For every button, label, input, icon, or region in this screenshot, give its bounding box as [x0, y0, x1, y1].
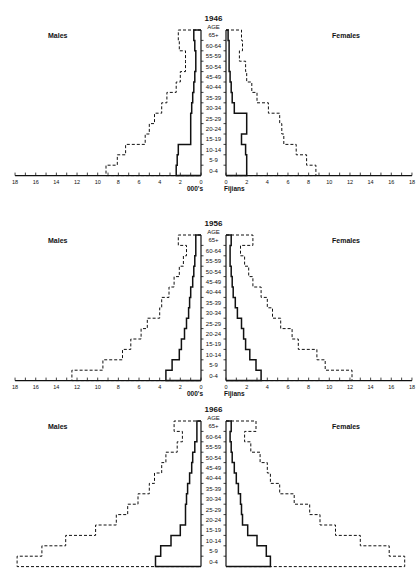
x-tick-label-right: 14 [368, 384, 374, 390]
age-group-label: 35-39 [206, 95, 222, 101]
x-tick-label-right: 2 [245, 179, 248, 185]
age-group-label: 40-44 [206, 84, 222, 90]
age-group-label: 65+ [208, 423, 219, 429]
x-tick-label-left: 12 [74, 384, 80, 390]
x-tick-label-left: 16 [33, 179, 39, 185]
age-header-label: AGE [207, 229, 220, 235]
age-group-label: 5-9 [209, 362, 218, 368]
females-label: Females [332, 423, 360, 430]
age-group-label: 0-4 [209, 559, 218, 565]
x-tick-label-left: 10 [95, 179, 101, 185]
males-dashed-step-line [72, 235, 201, 381]
females-dashed-step-line [226, 30, 316, 176]
age-header-label: AGE [207, 24, 220, 30]
females-dashed-step-line [226, 421, 405, 567]
x-tick-label-right: 18 [409, 179, 415, 185]
x-tick-label-right: 14 [368, 179, 374, 185]
x-tick-label-right: 8 [307, 384, 310, 390]
pyramid-panel-1956: 1956AGEMalesFemales65+60-6455-5950-5445-… [12, 219, 415, 398]
age-group-label: 10-14 [206, 538, 222, 544]
x-tick-label-left: 14 [53, 384, 59, 390]
age-group-label: 45-49 [206, 279, 222, 285]
age-group-label: 30-34 [206, 105, 222, 111]
x-tick-label-left: 12 [74, 179, 80, 185]
age-group-label: 15-19 [206, 341, 222, 347]
x-tick-label-right: 18 [409, 384, 415, 390]
males-dashed-step-line [106, 30, 201, 176]
panel-year-title: 1946 [205, 14, 223, 23]
age-group-label: 25-29 [206, 507, 222, 513]
females-solid-step-line [226, 235, 261, 381]
x-tick-label-left: 8 [117, 384, 120, 390]
x-axis-population-label: Fijians [224, 185, 245, 193]
x-tick-label-left: 6 [137, 179, 140, 185]
x-tick-label-left: 16 [33, 384, 39, 390]
x-tick-label-right: 6 [286, 384, 289, 390]
x-tick-label-right: 4 [266, 384, 269, 390]
males-label: Males [48, 423, 68, 430]
age-group-label: 60-64 [206, 434, 222, 440]
age-group-label: 5-9 [209, 548, 218, 554]
x-tick-label-left: 18 [12, 384, 18, 390]
x-tick-label-right: 2 [245, 384, 248, 390]
x-tick-label-left: 8 [117, 179, 120, 185]
males-dashed-step-line [17, 421, 201, 567]
panel-year-title: 1956 [205, 219, 223, 228]
age-group-label: 0-4 [209, 373, 218, 379]
females-label: Females [332, 237, 360, 244]
males-label: Males [48, 32, 68, 39]
age-group-label: 30-34 [206, 496, 222, 502]
males-solid-step-line [176, 30, 201, 176]
females-solid-step-line [226, 30, 247, 176]
age-group-label: 35-39 [206, 486, 222, 492]
age-group-label: 50-54 [206, 269, 222, 275]
x-axis-unit-label: 000's [187, 390, 203, 397]
age-group-label: 40-44 [206, 475, 222, 481]
x-tick-label-right: 10 [326, 179, 332, 185]
females-label: Females [332, 32, 360, 39]
age-header-label: AGE [207, 415, 220, 421]
panel-year-title: 1966 [205, 405, 223, 414]
females-solid-step-line [226, 421, 270, 567]
age-group-label: 25-29 [206, 321, 222, 327]
x-tick-label-left: 4 [158, 384, 161, 390]
x-tick-label-right: 16 [388, 384, 394, 390]
age-group-label: 60-64 [206, 43, 222, 49]
age-group-label: 65+ [208, 32, 219, 38]
age-group-label: 15-19 [206, 527, 222, 533]
x-tick-label-left: 14 [53, 179, 59, 185]
age-group-label: 50-54 [206, 64, 222, 70]
age-group-label: 0-4 [209, 168, 218, 174]
age-group-label: 5-9 [209, 157, 218, 163]
age-group-label: 65+ [208, 237, 219, 243]
age-group-label: 45-49 [206, 465, 222, 471]
x-axis-unit-label: 000's [187, 185, 203, 192]
x-tick-label-right: 4 [266, 179, 269, 185]
age-group-label: 30-34 [206, 310, 222, 316]
females-dashed-step-line [226, 235, 352, 381]
age-group-label: 50-54 [206, 455, 222, 461]
age-group-label: 55-59 [206, 258, 222, 264]
age-group-label: 55-59 [206, 53, 222, 59]
age-group-label: 20-24 [206, 517, 222, 523]
pyramid-panel-1966: 1966AGEMalesFemales65+60-6455-5950-5445-… [17, 405, 405, 567]
males-label: Males [48, 237, 68, 244]
age-group-label: 40-44 [206, 289, 222, 295]
x-tick-label-left: 18 [12, 179, 18, 185]
age-group-label: 45-49 [206, 74, 222, 80]
x-tick-label-right: 12 [347, 179, 353, 185]
x-tick-label-left: 6 [137, 384, 140, 390]
x-axis-population-label: Fijians [224, 390, 245, 398]
pyramid-panel-1946: 1946AGEMalesFemales65+60-6455-5950-5445-… [12, 14, 415, 193]
age-group-label: 20-24 [206, 126, 222, 132]
x-tick-label-right: 10 [326, 384, 332, 390]
age-group-label: 10-14 [206, 352, 222, 358]
age-group-label: 35-39 [206, 300, 222, 306]
x-tick-label-right: 6 [286, 179, 289, 185]
x-tick-label-left: 2 [179, 179, 182, 185]
age-group-label: 20-24 [206, 331, 222, 337]
x-tick-label-left: 2 [179, 384, 182, 390]
x-tick-label-right: 16 [388, 179, 394, 185]
age-group-label: 15-19 [206, 136, 222, 142]
age-group-label: 60-64 [206, 248, 222, 254]
